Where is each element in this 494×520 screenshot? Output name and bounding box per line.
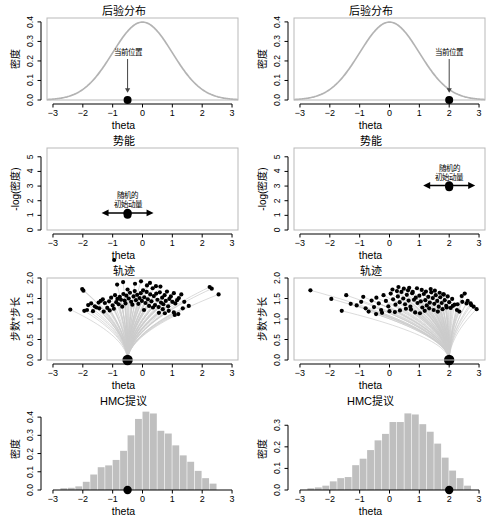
y-tick-label: 0.0: [25, 354, 35, 366]
annotation-line-2: 初始动量: [104, 200, 152, 209]
y-tick-label: 1: [272, 213, 282, 218]
y-tick-label: 0.2: [25, 448, 35, 460]
panel-proposal-left: HMC提议−3−2−101230.00.10.20.30.4theta密度: [0, 390, 247, 520]
panel-trajectory-left: 轨迹−3−2−101230.00.51.01.52.0theta步数*步长: [0, 260, 247, 390]
current-position-marker: [123, 486, 131, 494]
y-tick-label: 0.2: [25, 55, 35, 67]
x-tick-label: 0: [380, 368, 400, 378]
x-tick-label: −2: [73, 494, 93, 504]
x-tick-label: −1: [103, 368, 123, 378]
x-tick-label: −2: [73, 368, 93, 378]
y-tick-label: 0.1: [272, 75, 282, 87]
x-tick-label: 2: [439, 238, 459, 248]
trajectory-endpoints: [68, 258, 221, 317]
panel-potential-right: 势能−3−2−10123012345theta-log(密度)随机的初始动量: [247, 130, 494, 260]
current-position-marker: [445, 96, 453, 104]
x-tick-label: 3: [222, 494, 242, 504]
y-axis-label: 密度: [7, 439, 22, 459]
y-tick-label: 0.0: [25, 94, 35, 106]
y-tick-label: 0.0: [272, 354, 282, 366]
x-tick-label: 3: [469, 108, 489, 118]
y-axis-label: 步数*步长: [254, 297, 269, 341]
y-axis-label: -log(密度): [254, 167, 269, 210]
x-tick-label: 3: [469, 368, 489, 378]
x-tick-label: 0: [380, 238, 400, 248]
y-tick-label: 5: [272, 154, 282, 159]
plot-annotation: 随机的初始动量: [104, 191, 152, 209]
y-axis-label: 步数*步长: [7, 297, 22, 341]
x-tick-label: −3: [290, 108, 310, 118]
annotation-line-1: 随机的: [425, 164, 473, 173]
y-tick-label: 1.0: [25, 313, 35, 325]
x-tick-label: −1: [350, 238, 370, 248]
histogram-bars: [60, 412, 216, 490]
y-tick-label: 0.3: [25, 36, 35, 48]
x-tick-label: −2: [73, 108, 93, 118]
density-curve: [294, 22, 485, 99]
y-tick-label: 1.5: [25, 293, 35, 305]
x-tick-label: −1: [350, 494, 370, 504]
x-tick-label: 1: [162, 368, 182, 378]
annotation-line-2: 初始动量: [425, 173, 473, 182]
momentum-marker: [445, 181, 453, 189]
x-tick-label: 0: [133, 494, 153, 504]
current-position-marker: [445, 486, 453, 494]
x-tick-label: −2: [73, 238, 93, 248]
plot-annotation: 随机的初始动量: [425, 164, 473, 182]
x-tick-label: 0: [133, 368, 153, 378]
x-axis-label: theta: [0, 505, 247, 517]
x-tick-label: −1: [350, 108, 370, 118]
x-tick-label: 0: [380, 494, 400, 504]
x-tick-label: −3: [43, 238, 63, 248]
y-tick-label: 0.4: [272, 16, 282, 28]
x-tick-label: −3: [43, 494, 63, 504]
y-tick-label: 1.0: [272, 313, 282, 325]
y-tick-label: 2: [25, 198, 35, 203]
y-tick-label: 0.5: [25, 334, 35, 346]
x-tick-label: −3: [290, 238, 310, 248]
y-tick-label: 0: [272, 228, 282, 233]
panel-posterior-left: 后验分布−3−2−101230.00.10.20.30.4theta密度当前位置: [0, 0, 247, 130]
x-tick-label: −3: [290, 368, 310, 378]
hmc-figure: 后验分布−3−2−101230.00.10.20.30.4theta密度当前位置…: [0, 0, 494, 520]
x-tick-label: 0: [380, 108, 400, 118]
x-tick-label: 2: [192, 108, 212, 118]
panel-potential-left: 势能−3−2−10123012345theta-log(密度)随机的初始动量: [0, 130, 247, 260]
x-tick-label: 0: [133, 238, 153, 248]
y-tick-label: 0.0: [272, 484, 282, 496]
x-tick-label: 3: [469, 238, 489, 248]
x-tick-label: −1: [103, 108, 123, 118]
plot-frame: [294, 148, 485, 230]
plot-annotation: 当前位置: [106, 48, 150, 57]
y-tick-label: 0.2: [272, 441, 282, 453]
x-tick-label: 1: [409, 368, 429, 378]
y-tick-label: 0.1: [25, 75, 35, 87]
panel-posterior-right: 后验分布−3−2−101230.00.10.20.30.4theta密度当前位置: [247, 0, 494, 130]
x-tick-label: −2: [320, 108, 340, 118]
x-tick-label: 3: [222, 238, 242, 248]
x-tick-label: 2: [439, 494, 459, 504]
x-tick-label: 2: [439, 368, 459, 378]
x-tick-label: −2: [320, 368, 340, 378]
momentum-arrow-head-left: [102, 210, 109, 217]
x-tick-label: 1: [162, 238, 182, 248]
current-position-marker: [124, 96, 132, 104]
y-tick-label: 5: [25, 154, 35, 159]
y-tick-label: 4: [272, 169, 282, 174]
x-tick-label: 2: [192, 368, 212, 378]
x-tick-label: −2: [320, 494, 340, 504]
y-tick-label: 2.0: [25, 272, 35, 284]
x-tick-label: −3: [290, 494, 310, 504]
y-tick-label: 2: [272, 198, 282, 203]
plot-frame: [47, 148, 238, 230]
y-axis-label: 密度: [7, 49, 22, 69]
annotation-arrow-head: [125, 88, 130, 93]
y-tick-label: 0.4: [25, 16, 35, 28]
y-tick-label: 3: [272, 184, 282, 189]
x-tick-label: −1: [103, 494, 123, 504]
x-tick-label: 3: [469, 494, 489, 504]
x-tick-label: 3: [222, 368, 242, 378]
y-axis-label: -log(密度): [7, 167, 22, 210]
x-tick-label: 2: [192, 494, 212, 504]
y-tick-label: 0.0: [25, 484, 35, 496]
